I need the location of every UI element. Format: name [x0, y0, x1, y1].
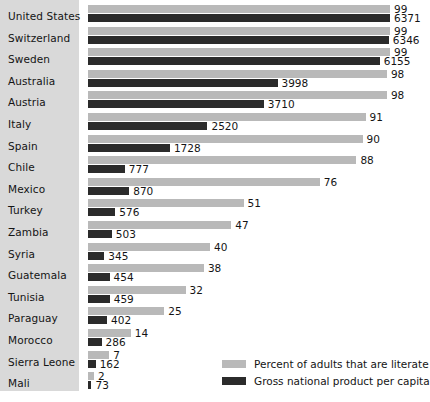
bar-gnp [88, 208, 115, 216]
bar-gnp [88, 122, 207, 130]
chart-row: 51576 [0, 199, 420, 221]
legend-swatch-gnp [222, 377, 246, 385]
chart-row: 912520 [0, 113, 420, 135]
bar-value-gnp: 6155 [384, 56, 411, 67]
chart-row: 996371 [0, 5, 420, 27]
bar-gnp [88, 57, 380, 65]
bar-value-gnp: 2520 [211, 121, 238, 132]
bar-gnp [88, 165, 125, 173]
legend-swatch-literacy [222, 360, 246, 368]
bar-value-gnp: 162 [100, 359, 120, 370]
bar-literacy [88, 70, 387, 78]
bar-literacy [88, 27, 390, 35]
bar-gnp [88, 316, 107, 324]
bar-value-gnp: 777 [129, 164, 149, 175]
bar-gnp [88, 144, 170, 152]
bar-gnp [88, 36, 389, 44]
bar-value-literacy: 90 [367, 134, 380, 145]
bar-value-gnp: 3710 [268, 99, 295, 110]
bar-literacy [88, 372, 94, 380]
bar-value-literacy: 98 [391, 69, 404, 80]
bar-value-gnp: 286 [106, 337, 126, 348]
bar-value-gnp: 402 [111, 315, 131, 326]
bar-gnp [88, 14, 390, 22]
bar-value-gnp: 6346 [393, 35, 420, 46]
chart-row: 88777 [0, 156, 420, 178]
bar-value-gnp: 459 [114, 294, 134, 305]
bar-gnp [88, 100, 264, 108]
legend-label-gnp: Gross national product per capita [254, 375, 430, 388]
bar-literacy [88, 91, 387, 99]
bar-value-gnp: 6371 [394, 13, 421, 24]
bar-gnp [88, 338, 102, 346]
chart-row: 76870 [0, 178, 420, 200]
bar-value-gnp: 870 [133, 186, 153, 197]
bar-value-literacy: 98 [391, 90, 404, 101]
chart-row: 983998 [0, 70, 420, 92]
bar-literacy [88, 135, 363, 143]
bar-value-gnp: 345 [108, 251, 128, 262]
bar-value-literacy: 47 [235, 220, 248, 231]
chart-row: 32459 [0, 286, 420, 308]
bar-gnp [88, 360, 96, 368]
bar-gnp [88, 273, 110, 281]
bar-value-gnp: 454 [114, 272, 134, 283]
bar-gnp [88, 295, 110, 303]
chart-row: 40345 [0, 243, 420, 265]
chart-row: 996346 [0, 27, 420, 49]
bar-literacy [88, 286, 186, 294]
bar-gnp [88, 79, 278, 87]
bar-value-gnp: 73 [95, 380, 108, 391]
bar-literacy [88, 48, 390, 56]
bar-literacy [88, 243, 210, 251]
chart-row: 996155 [0, 48, 420, 70]
bar-gnp [88, 230, 112, 238]
bar-literacy [88, 221, 231, 229]
bar-value-gnp: 1728 [174, 143, 201, 154]
bar-literacy [88, 5, 390, 13]
bar-gnp [88, 252, 104, 260]
bar-value-literacy: 38 [208, 263, 221, 274]
bar-value-gnp: 576 [119, 207, 139, 218]
bar-value-literacy: 32 [190, 285, 203, 296]
bar-value-literacy: 88 [360, 155, 373, 166]
chart-row: 14286 [0, 329, 420, 351]
bar-value-literacy: 91 [370, 112, 383, 123]
bar-literacy [88, 264, 204, 272]
bar-value-literacy: 14 [135, 328, 148, 339]
bar-value-literacy: 25 [168, 306, 181, 317]
bar-gnp [88, 187, 129, 195]
bar-gnp [88, 381, 91, 389]
chart-row: 25402 [0, 307, 420, 329]
chart-row: 47503 [0, 221, 420, 243]
bar-value-gnp: 503 [116, 229, 136, 240]
legend-label-literacy: Percent of adults that are literate [254, 358, 429, 371]
bar-value-literacy: 40 [214, 242, 227, 253]
chart-row: 901728 [0, 135, 420, 157]
chart-row: 38454 [0, 264, 420, 286]
bar-value-gnp: 3998 [282, 78, 309, 89]
bar-literacy [88, 199, 244, 207]
bar-value-literacy: 51 [248, 198, 261, 209]
bar-literacy [88, 178, 320, 186]
bar-value-literacy: 76 [324, 177, 337, 188]
chart-row: 983710 [0, 91, 420, 113]
